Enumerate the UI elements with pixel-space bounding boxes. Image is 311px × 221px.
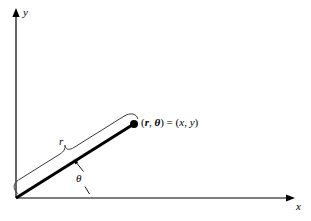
y-axis-label: y bbox=[23, 7, 28, 18]
theta-leader-tick bbox=[85, 187, 90, 195]
point-marker bbox=[130, 120, 138, 128]
x-axis bbox=[16, 194, 295, 201]
point-coordinates-label: (r, θ) = (x, y) bbox=[141, 117, 198, 128]
x-axis-arrowhead bbox=[286, 194, 295, 201]
point-label-close-cartesian: ) bbox=[195, 116, 199, 128]
figure-canvas bbox=[0, 0, 311, 221]
y-axis bbox=[12, 8, 19, 198]
y-axis-arrowhead bbox=[12, 8, 19, 17]
x-axis-label: x bbox=[296, 201, 301, 212]
angle-label: θ bbox=[76, 173, 81, 184]
point-label-equals: = bbox=[164, 116, 176, 128]
radius-label: r bbox=[59, 136, 63, 147]
polar-coordinates-figure: y x r θ (r, θ) = (x, y) bbox=[0, 0, 311, 221]
brace-lower-arm bbox=[14, 146, 65, 194]
